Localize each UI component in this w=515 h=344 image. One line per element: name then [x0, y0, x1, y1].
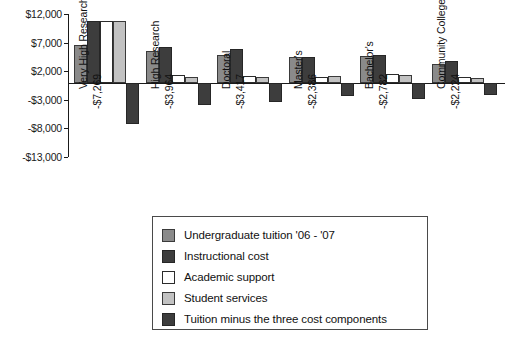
legend-item[interactable]: Instructional cost [162, 246, 427, 266]
y-axis-tick-mark [64, 14, 68, 15]
y-axis-tick-mark [64, 71, 68, 72]
legend-item[interactable]: Undergraduate tuition '06 - '07 [162, 225, 427, 245]
y-axis-tick-label: -$13,000 [0, 151, 62, 163]
bar [399, 75, 412, 83]
bar [113, 21, 126, 83]
y-axis-tick-label: -$3,000 [0, 94, 62, 106]
y-axis-tick-label: $7,000 [0, 37, 62, 49]
legend-item-label: Academic support [184, 271, 274, 283]
bar [198, 83, 211, 106]
legend-item[interactable]: Student services [162, 288, 427, 308]
legend-item-label: Student services [184, 292, 267, 304]
y-axis-tick-mark [64, 128, 68, 129]
y-axis-tick-mark [64, 100, 68, 101]
bar [484, 83, 497, 96]
bar [269, 83, 282, 103]
y-axis-tick-label: $2,000 [0, 65, 62, 77]
y-axis-tick-label: -$8,000 [0, 122, 62, 134]
bar-value-annotation: -$3,417 [234, 74, 246, 109]
legend-swatch-icon [162, 313, 175, 326]
legend-item[interactable]: Academic support [162, 267, 427, 287]
x-axis-category-label: High Research [149, 20, 161, 88]
y-axis-line [68, 14, 69, 157]
bar [328, 76, 341, 82]
legend-item-label: Undergraduate tuition '06 - '07 [184, 229, 335, 241]
bar [471, 78, 484, 83]
bar-value-annotation: -$2,782 [377, 74, 389, 109]
bar [126, 83, 139, 125]
x-axis-category-label: Community College [435, 0, 447, 89]
x-axis-category-label: Doctoral [220, 50, 232, 88]
y-axis-tick-mark [64, 157, 68, 158]
bar [341, 83, 354, 97]
bar [256, 77, 269, 82]
bar-value-annotation: -$3,964 [163, 74, 175, 109]
x-axis-category-label: Bachelor's [363, 41, 375, 89]
legend-swatch-icon [162, 292, 175, 305]
x-axis-category-label: Master's [292, 50, 304, 89]
legend-item-label: Tuition minus the three cost components [184, 313, 387, 325]
bar-value-annotation: -$2,224 [449, 74, 461, 109]
bar [412, 83, 425, 99]
y-axis-tick-label: $12,000 [0, 8, 62, 20]
bar [185, 77, 198, 83]
chart-screenshot: $12,000$7,000$2,000-$3,000-$8,000-$13,00… [0, 0, 515, 344]
x-axis-category-label: Very High Research [77, 0, 89, 89]
y-axis-tick-mark [64, 43, 68, 44]
legend-swatch-icon [162, 250, 175, 263]
legend-swatch-icon [162, 271, 175, 284]
bar-value-annotation: -$2,386 [306, 74, 318, 109]
legend-swatch-icon [162, 229, 175, 242]
legend-item-label: Instructional cost [184, 250, 269, 262]
chart-legend: Undergraduate tuition '06 - '07Instructi… [152, 216, 428, 330]
bar-value-annotation: -$7,269 [91, 74, 103, 109]
legend-item[interactable]: Tuition minus the three cost components [162, 309, 427, 329]
